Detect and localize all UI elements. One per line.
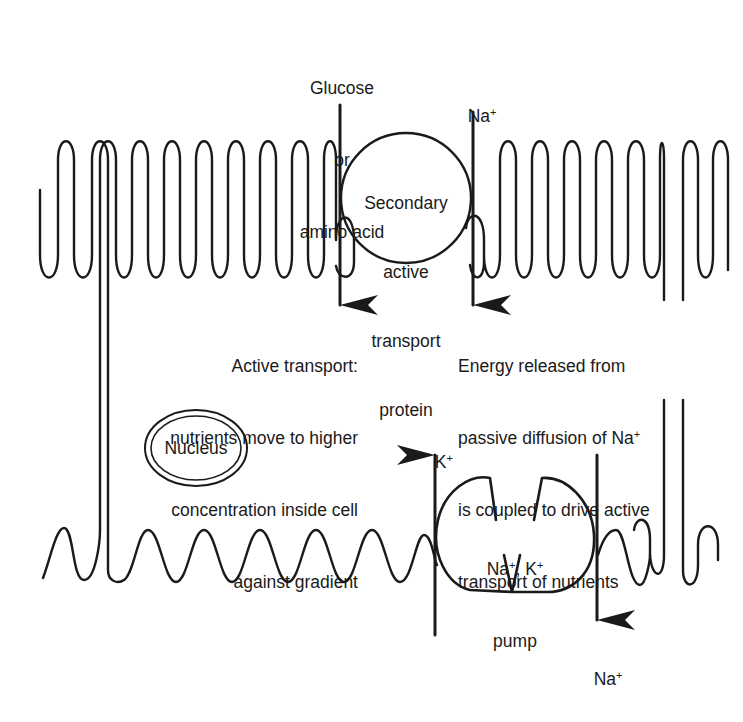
potassium-top-charge: +: [446, 452, 452, 464]
pump-k-charge: +: [537, 559, 543, 571]
sodium-top-charge: +: [490, 106, 496, 118]
active-transport-line3: concentration inside cell: [108, 498, 358, 522]
protein-label-line2: active: [346, 261, 466, 284]
secondary-transport-protein-label: Secondary active transport protein: [346, 146, 466, 445]
nutrient-label-line1: Glucose: [262, 76, 422, 100]
energy-line2-charge: +: [634, 428, 640, 440]
maintains-label: Maintains Na+ concentration; [Na+] low i…: [530, 680, 670, 722]
active-transport-line1: Active transport:: [108, 354, 358, 378]
na-k-pump-label: Na+, K+ pump: [465, 509, 565, 677]
protein-label-line1: Secondary: [346, 192, 466, 215]
pump-line1: Na+, K+: [465, 557, 565, 581]
sodium-top-base: Na: [468, 106, 490, 126]
sodium-top-label: Na+: [458, 80, 497, 128]
potassium-top-label: K+: [425, 426, 453, 474]
protein-label-line4: protein: [346, 399, 466, 422]
pump-line2: pump: [465, 629, 565, 653]
pump-k: , K: [515, 559, 536, 579]
apical-microvilli-left: [40, 141, 108, 530]
energy-line2-text: passive diffusion of Na: [458, 428, 634, 448]
pump-na: Na: [487, 559, 509, 579]
potassium-top-base: K: [435, 452, 447, 472]
energy-line2: passive diffusion of Na+: [458, 426, 718, 450]
nucleus-label: Nucleus: [146, 436, 246, 460]
protein-label-line3: transport: [346, 330, 466, 353]
energy-line1: Energy released from: [458, 354, 718, 378]
active-transport-line4: against gradient: [108, 570, 358, 594]
apical-microvilli-right: [466, 141, 728, 300]
active-transport-label: Active transport: nutrients move to high…: [108, 306, 358, 618]
